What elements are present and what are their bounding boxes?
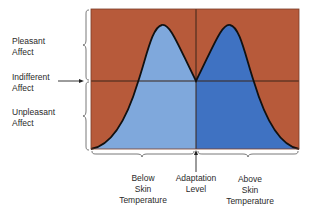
- indifferent-affect-label: Indifferent Affect: [12, 72, 50, 94]
- label-line: Temperature: [115, 195, 171, 206]
- label-line: Temperature: [222, 196, 278, 207]
- label-line: Affect: [12, 83, 50, 94]
- label-line: Skin: [115, 184, 171, 195]
- above-bracket: [198, 151, 298, 157]
- label-line: Level: [168, 184, 224, 195]
- unpleasant-bracket: [83, 82, 89, 150]
- adaptation-level-label: Adaptation Level: [168, 173, 224, 195]
- above-skin-label: Above Skin Temperature: [222, 174, 278, 207]
- pleasant-affect-label: Pleasant Affect: [12, 36, 45, 58]
- indifferent-arrow-icon: [79, 79, 84, 83]
- label-line: Affect: [12, 47, 45, 58]
- label-line: Indifferent: [12, 72, 50, 83]
- pleasant-bracket: [83, 10, 89, 80]
- label-line: Affect: [12, 118, 55, 129]
- adaptation-arrow-icon: [194, 150, 198, 155]
- below-skin-label: Below Skin Temperature: [115, 173, 171, 206]
- label-line: Skin: [222, 185, 278, 196]
- unpleasant-affect-label: Unpleasant Affect: [12, 107, 55, 129]
- label-line: Unpleasant: [12, 107, 55, 118]
- label-line: Pleasant: [12, 36, 45, 47]
- label-line: Below: [115, 173, 171, 184]
- below-bracket: [92, 151, 194, 157]
- label-line: Above: [222, 174, 278, 185]
- label-line: Adaptation: [168, 173, 224, 184]
